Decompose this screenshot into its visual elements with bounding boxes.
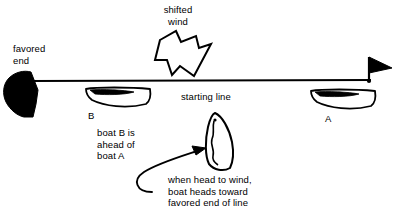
note-pointer-arrowhead [192, 146, 206, 155]
label-boat-b-ahead-of-boat-a: boat B is ahead of boat A [97, 127, 183, 162]
pin-end-dot [367, 79, 371, 83]
starting-line [30, 80, 371, 81]
favored-end-pennant [4, 71, 38, 117]
label-boat-a: A [325, 113, 339, 125]
sailing-diagram: shifted wind favored end starting line B… [0, 0, 396, 211]
label-favored-end: favored end [13, 43, 83, 66]
boat-head-to-wind-icon [206, 113, 233, 170]
boat-a-icon [311, 90, 375, 109]
label-shifted-wind: shifted wind [141, 4, 215, 27]
label-boat-b: B [88, 110, 102, 122]
shifted-wind-arrow-icon [155, 31, 211, 76]
label-starting-line: starting line [181, 91, 261, 103]
boat-b-icon [86, 88, 150, 107]
label-head-to-wind-note: when head to wind, boat heads toward fav… [168, 174, 298, 209]
committee-boat-flag-icon [369, 57, 392, 73]
